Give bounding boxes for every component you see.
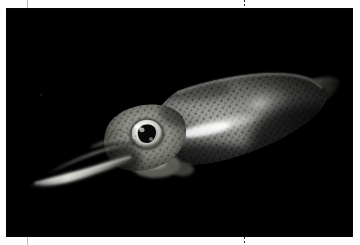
bottom-center-crop-mark	[244, 237, 245, 244]
bottom-left-crop-mark	[27, 236, 28, 245]
squid-illustration	[7, 9, 352, 236]
top-center-crop-mark	[244, 0, 245, 9]
top-left-crop-mark	[27, 0, 28, 9]
page-canvas: A squid photographed against a black bac…	[0, 0, 360, 245]
photo-vignette	[7, 9, 352, 236]
squid-photograph: A squid photographed against a black bac…	[7, 9, 352, 236]
